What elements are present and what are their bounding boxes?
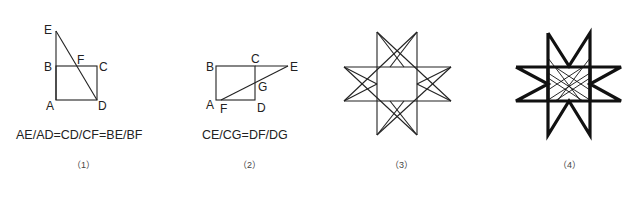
figure-2-caption: （2） [238, 160, 261, 170]
figure-1-caption: （1） [72, 160, 95, 170]
point-label-g: G [258, 81, 267, 93]
point-label-e: E [44, 24, 52, 36]
figure-3-caption: （3） [390, 160, 413, 170]
point-label-d: D [257, 102, 266, 114]
point-label-c: C [99, 61, 108, 73]
point-label-b: B [44, 61, 52, 73]
point-label-a: A [206, 99, 214, 111]
point-label-c: C [251, 53, 260, 65]
figure-1-diagram [0, 0, 627, 207]
point-label-f: F [220, 103, 227, 115]
point-label-e: E [290, 61, 298, 73]
point-label-a: A [46, 100, 54, 112]
point-label-f: F [77, 54, 84, 66]
point-label-d: D [98, 100, 107, 112]
point-label-b: B [206, 61, 214, 73]
figure-1-formula: AE/AD=CD/CF=BE/BF [16, 128, 142, 142]
figure-4-caption: （4） [558, 160, 581, 170]
figure-2-formula: CE/CG=DF/DG [202, 128, 288, 142]
